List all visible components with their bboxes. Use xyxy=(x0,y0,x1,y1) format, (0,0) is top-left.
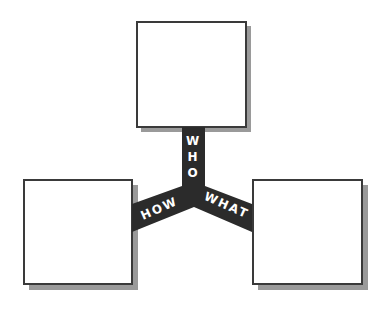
who-label-o: O xyxy=(187,166,199,180)
who-label-w: W xyxy=(186,134,201,148)
who-label-h: H xyxy=(187,150,199,164)
y-connector: W H O HOW WHAT xyxy=(0,0,389,309)
